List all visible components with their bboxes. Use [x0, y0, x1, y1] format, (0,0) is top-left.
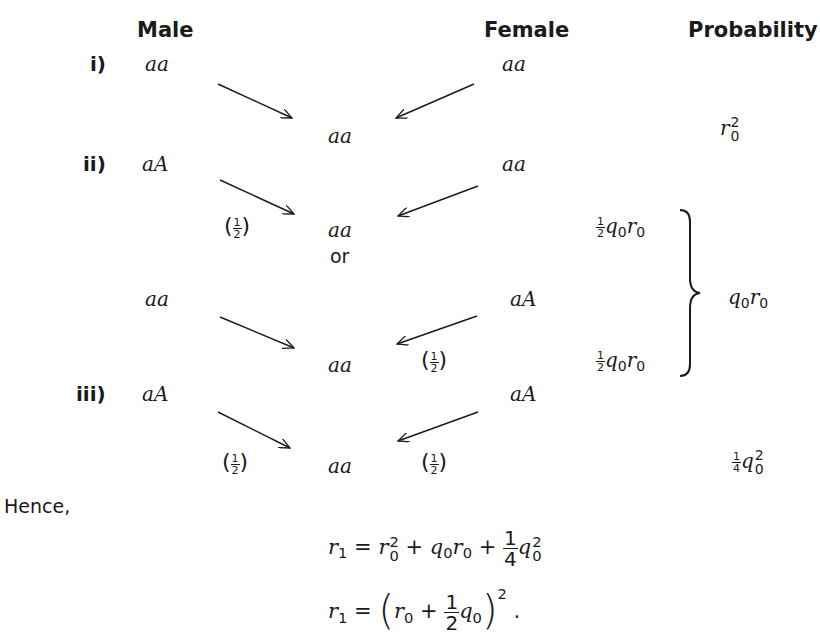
male-genotype-iii: aA [142, 382, 168, 406]
male-genotype-i: aa [145, 52, 169, 76]
partial-probability-ii-a: 12q0r0 [596, 214, 645, 240]
probability-iii: 14q20 [732, 449, 764, 476]
male-genotype-ii: aA [142, 152, 168, 176]
probability-ii: q0r0 [728, 285, 768, 311]
female-genotype-i: aa [502, 52, 526, 76]
case-label-i: i) [90, 52, 106, 76]
male-factor-ii: (12) [224, 213, 250, 240]
or-connector: or [330, 245, 349, 267]
hence-text: Hence, [4, 495, 70, 517]
case-label-ii: ii) [83, 152, 106, 176]
female-genotype-iii: aA [510, 382, 536, 406]
offspring-genotype-i: aa [328, 124, 352, 148]
female-genotype-ii-b: aA [510, 287, 536, 311]
equation-1: r1 = r20 + q0r0 + 14q20 [328, 528, 542, 569]
offspring-genotype-ii-b: aa [328, 353, 352, 377]
probability-i: r20 [720, 116, 739, 143]
offspring-genotype-iii: aa [328, 454, 352, 478]
female-genotype-ii: aa [502, 152, 526, 176]
male-factor-iii: (12) [222, 449, 248, 476]
partial-probability-ii-b: 12q0r0 [596, 348, 645, 374]
case-label-iii: iii) [76, 382, 106, 406]
offspring-genotype-ii-a: aa [328, 218, 352, 242]
right-brace [678, 208, 708, 378]
female-factor-ii-b: (12) [421, 347, 447, 374]
male-genotype-ii-b: aa [145, 287, 169, 311]
female-factor-iii: (12) [421, 449, 447, 476]
equation-2: r1 = (r0 + 12q0)2 . [328, 585, 520, 633]
